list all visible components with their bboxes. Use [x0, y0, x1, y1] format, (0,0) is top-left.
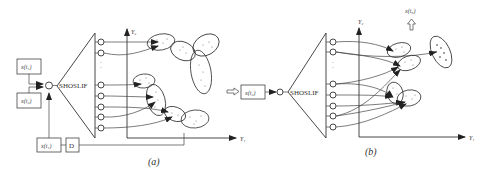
diagram-canvas: x(t₁) x(t₂) x(t₁) D SHOSLIF · [0, 0, 491, 177]
clusters-b [384, 33, 456, 108]
caption-a: (a) [148, 156, 160, 168]
summing-node-b [277, 89, 283, 95]
hollow-arrow-in [227, 88, 239, 95]
input-box-x-t2: x(t₂) [17, 93, 41, 108]
svg-text:·: · [332, 65, 334, 71]
output-label-x-t3: x(t₃) [404, 8, 415, 15]
svg-text:x(t₂): x(t₂) [20, 98, 31, 105]
shoslif-network-b [288, 33, 326, 138]
svg-text:x(t₁): x(t₁) [20, 64, 31, 71]
output-nodes-a: · · [95, 39, 104, 131]
svg-text:Y₁: Y₁ [469, 135, 474, 141]
svg-text:D: D [69, 142, 74, 150]
output-nodes-b: · · [326, 39, 336, 130]
mapping-arrows-b [336, 41, 436, 127]
caption-b: (b) [365, 146, 377, 158]
svg-text:SHOSLIF: SHOSLIF [59, 82, 88, 90]
svg-text:x(t₁): x(t₁) [40, 143, 51, 150]
hollow-arrow-out [408, 19, 416, 30]
svg-text:Y₁: Y₁ [240, 136, 245, 142]
summing-node [46, 82, 53, 89]
input-box-x-t1: x(t₁) [17, 59, 41, 74]
panel-a: x(t₁) x(t₂) x(t₁) D SHOSLIF · [17, 29, 245, 168]
svg-text:Y₂: Y₂ [358, 19, 363, 25]
delay-box: D [66, 138, 79, 152]
panel-b: x(t₂) SHOSLIF · · Y₂ Y₁ x(t₃) [227, 8, 474, 158]
svg-text:·: · [100, 65, 102, 71]
svg-text:Y₂: Y₂ [131, 29, 136, 35]
input-box-x-t2-b: x(t₂) [241, 85, 265, 99]
feedback-box-x-t1: x(t₁) [37, 138, 61, 152]
svg-text:x(t₂): x(t₂) [244, 90, 255, 97]
svg-text:SHOSLIF: SHOSLIF [290, 89, 319, 97]
